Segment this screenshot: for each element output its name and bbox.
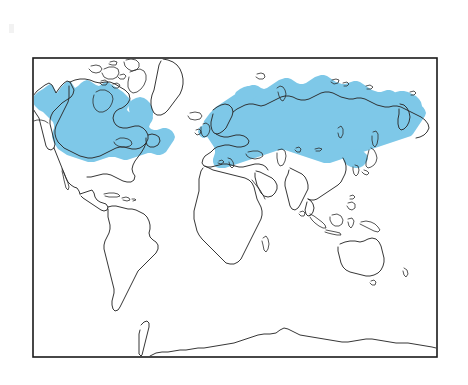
scan-smudge [9, 24, 14, 33]
distribution-map-figure [0, 0, 468, 385]
world-map-svg [0, 0, 468, 385]
